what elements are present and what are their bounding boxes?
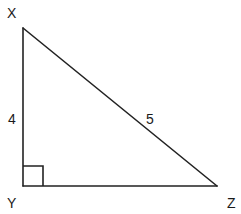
side-xz [23, 28, 217, 186]
side-label-xy: 4 [8, 111, 16, 127]
vertex-label-z: Z [227, 195, 236, 211]
triangle-diagram: X Y Z 4 5 [0, 0, 241, 214]
side-label-xz: 5 [146, 111, 154, 127]
vertex-label-x: X [7, 5, 17, 21]
vertex-label-y: Y [7, 195, 17, 211]
right-angle-marker [23, 166, 43, 186]
